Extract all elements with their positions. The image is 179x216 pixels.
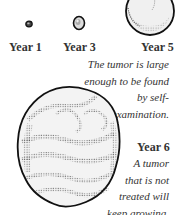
stage-label-year5: Year 5 xyxy=(141,40,174,55)
tumor-year5-illustration xyxy=(120,0,178,38)
year5-caption-line: The tumor is large xyxy=(59,56,169,73)
stage-label-year3: Year 3 xyxy=(63,40,96,55)
year6-caption-line: keep growing. xyxy=(79,205,169,216)
year6-caption-line: that is not xyxy=(79,172,169,189)
tumor-year3-illustration xyxy=(71,14,87,32)
tumor-year1-illustration xyxy=(24,19,34,29)
year6-caption-line: treated will xyxy=(79,188,169,205)
stage-label-year6: Year 6 xyxy=(137,140,170,155)
year6-caption-line: A tumor xyxy=(79,155,169,172)
year6-caption: A tumor that is not treated will keep gr… xyxy=(79,155,169,215)
stage-label-year1: Year 1 xyxy=(9,40,42,55)
